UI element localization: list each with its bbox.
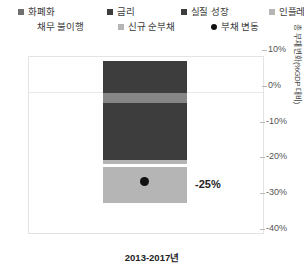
y-tick-neg20: -20% — [266, 151, 287, 161]
chart-root: 화폐화 금리 실질 성장 인플레이션 채무 불이행 신규 순부채 — [0, 0, 304, 274]
y-tick-mark-10 — [262, 50, 267, 51]
legend-item-geumri[interactable]: 금리 — [107, 6, 135, 18]
legend-item-inflation[interactable]: 인플레이션 — [269, 6, 304, 18]
y-tick-mark-neg10 — [260, 122, 265, 123]
y-tick-mark-neg30 — [260, 193, 265, 194]
legend-row-2: 채무 불이행 신규 순부채 부채 변동 — [0, 21, 304, 33]
legend-item-hwapyehwa[interactable]: 화폐화 — [18, 6, 55, 18]
y-tick-label-neg10: -10% — [266, 116, 287, 126]
y-axis-title: 총 부채 변화(%GDP 대비) — [293, 24, 304, 104]
legend-item-default[interactable]: 채무 불이행 — [27, 21, 84, 33]
legend-label-default: 채무 불이행 — [37, 21, 84, 33]
legend-swatch-geumri — [107, 9, 113, 15]
legend-label-hwapyehwa: 화폐화 — [28, 6, 55, 18]
y-tick-10: 10% — [268, 44, 286, 54]
bar-segment-geumri[interactable] — [103, 61, 187, 93]
bar-segment-inflation[interactable] — [103, 160, 187, 164]
legend-label-geumri: 금리 — [117, 6, 135, 18]
legend-swatch-hwapyehwa — [18, 9, 24, 15]
y-tick-label-neg40: -40% — [266, 223, 287, 233]
y-tick-label-0: 0% — [268, 80, 281, 90]
stacked-bar-2013-2017[interactable] — [103, 57, 187, 235]
legend-row-1: 화폐화 금리 실질 성장 인플레이션 — [0, 6, 304, 18]
legend-item-new-net-debt[interactable]: 신규 순부채 — [118, 21, 175, 33]
legend-item-debt-change[interactable]: 부채 변동 — [211, 21, 259, 33]
debt-change-value-label: -25% — [195, 178, 221, 190]
y-tick-neg40: -40% — [266, 223, 287, 233]
y-tick-label-10: 10% — [268, 44, 286, 54]
legend-swatch-inflation — [269, 9, 275, 15]
legend-swatch-new-net-debt — [118, 24, 124, 30]
bar-segment-real-growth[interactable] — [103, 103, 187, 160]
y-tick-0: 0% — [268, 80, 281, 90]
legend-label-new-net-debt: 신규 순부채 — [128, 21, 175, 33]
legend-swatch-real-growth — [181, 9, 187, 15]
bar-segment-hwapyehwa[interactable] — [103, 93, 187, 104]
y-tick-mark-neg40 — [260, 229, 265, 230]
y-tick-label-neg20: -20% — [266, 151, 287, 161]
y-tick-mark-neg20 — [260, 157, 265, 158]
x-axis-label: 2013-2017년 — [0, 250, 304, 264]
y-tick-neg30: -30% — [266, 187, 287, 197]
legend-item-real-growth[interactable]: 실질 성장 — [181, 6, 229, 18]
legend-swatch-default — [27, 24, 33, 30]
legend-label-inflation: 인플레이션 — [279, 6, 304, 18]
legend-swatch-debt-change — [211, 24, 217, 30]
y-tick-neg10: -10% — [266, 116, 287, 126]
legend-label-real-growth: 실질 성장 — [191, 6, 229, 18]
y-tick-mark-0 — [262, 86, 267, 87]
chart-legend: 화폐화 금리 실질 성장 인플레이션 채무 불이행 신규 순부채 — [0, 6, 304, 33]
y-tick-label-neg30: -30% — [266, 187, 287, 197]
legend-label-debt-change: 부채 변동 — [221, 21, 259, 33]
plot-area: -25% — [28, 56, 264, 234]
